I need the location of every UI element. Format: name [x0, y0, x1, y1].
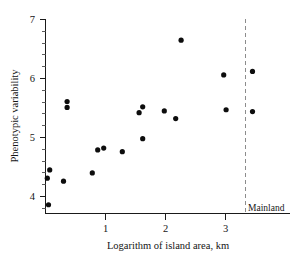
x-tick-labels: 1 2 3 — [103, 223, 228, 234]
data-point — [140, 104, 145, 109]
data-point — [47, 167, 52, 172]
x-axis-major-ticks — [106, 214, 226, 221]
data-point — [250, 109, 255, 114]
y-tick-label-6: 6 — [30, 73, 35, 84]
data-point — [140, 136, 145, 141]
data-point — [250, 69, 255, 74]
plot-canvas: 7 6 5 4 1 2 3 Logarithm of island area, … — [0, 0, 303, 258]
axes-group — [45, 19, 290, 214]
scatter-plot-figure: 7 6 5 4 1 2 3 Logarithm of island area, … — [0, 0, 303, 258]
data-point — [65, 99, 70, 104]
data-point — [61, 179, 66, 184]
data-point — [162, 108, 167, 113]
y-tick-label-5: 5 — [30, 132, 35, 143]
x-tick-label-2: 2 — [163, 223, 168, 234]
x-axis-title: Logarithm of island area, km — [107, 240, 229, 251]
y-tick-label-4: 4 — [30, 191, 36, 202]
data-point — [95, 147, 100, 152]
mainland-label: Mainland — [248, 203, 285, 213]
y-tick-label-7: 7 — [30, 14, 35, 25]
data-point — [45, 176, 50, 181]
y-axis-title: Phenotypic variability — [9, 69, 20, 163]
data-point — [90, 170, 95, 175]
data-point — [224, 107, 229, 112]
data-point — [179, 38, 184, 43]
x-tick-label-1: 1 — [103, 223, 108, 234]
x-tick-label-3: 3 — [223, 223, 228, 234]
data-points-layer — [45, 38, 255, 208]
y-axis-major-ticks — [40, 20, 46, 197]
data-point — [137, 110, 142, 115]
data-point — [101, 146, 106, 151]
data-point — [173, 116, 178, 121]
y-tick-labels: 7 6 5 4 — [30, 14, 36, 202]
data-point — [65, 105, 70, 110]
data-point — [120, 149, 125, 154]
y-axis-minor-ticks — [42, 31, 46, 208]
data-point — [221, 72, 226, 77]
data-point — [46, 202, 51, 207]
